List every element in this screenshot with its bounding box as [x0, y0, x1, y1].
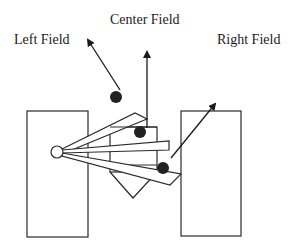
right-field-label: Right Field	[217, 33, 280, 47]
center-field-ball	[134, 126, 146, 138]
center-field-label: Center Field	[110, 13, 180, 27]
right-block	[181, 111, 241, 236]
right-field-ball	[157, 162, 169, 174]
right-field-arrow	[171, 104, 215, 158]
left-block	[27, 111, 88, 237]
left-field-arrow	[88, 40, 120, 90]
left-field-label: Left Field	[14, 33, 70, 47]
pivot-point	[51, 146, 63, 158]
batting-direction-diagram: Left Field Center Field Right Field	[0, 0, 302, 250]
left-field-ball	[110, 91, 122, 103]
